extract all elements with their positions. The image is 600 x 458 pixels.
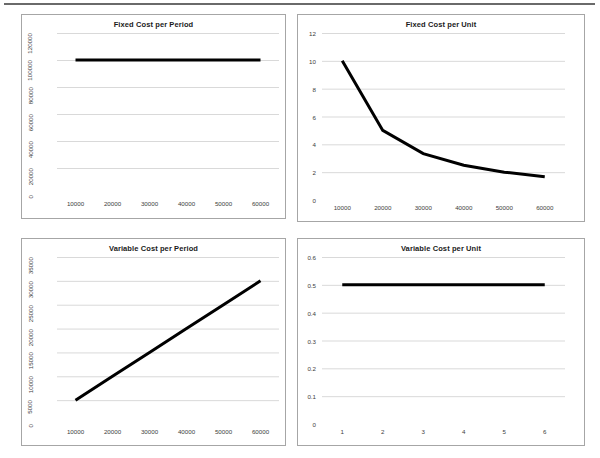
y-tick-label: 15000: [27, 352, 34, 369]
y-tick-label: 40000: [27, 141, 34, 158]
y-axis-labels: 024681012: [298, 15, 319, 223]
y-tick-label: 0: [27, 195, 34, 198]
x-tick-label: 60000: [252, 200, 269, 207]
x-axis-labels: 123456: [322, 428, 565, 444]
y-tick-label: 10: [309, 57, 316, 64]
series-line: [342, 61, 545, 177]
y-tick-label: 60000: [27, 114, 34, 131]
chart-variable-cost-per-period: Variable Cost per Period 050001000015000…: [21, 238, 286, 446]
series-line: [76, 281, 261, 400]
x-tick-label: 20000: [374, 204, 391, 211]
gridlines: [322, 258, 565, 425]
y-axis-labels: 020000400006000080000100000120000: [22, 15, 55, 220]
y-tick-label: 5000: [27, 400, 34, 414]
x-tick-label: 3: [422, 428, 425, 435]
chart-sheet: Fixed Cost per Period 020000400006000080…: [0, 0, 600, 458]
y-tick-label: 10000: [27, 376, 34, 393]
x-tick-label: 40000: [178, 428, 195, 435]
gridlines: [57, 34, 279, 196]
x-tick-label: 6: [543, 428, 546, 435]
plot-area: [322, 257, 565, 424]
x-tick-label: 10000: [334, 204, 351, 211]
y-tick-label: 0.1: [307, 393, 316, 400]
y-tick-label: 25000: [27, 305, 34, 322]
x-tick-label: 30000: [141, 428, 158, 435]
plot-svg: [57, 33, 279, 195]
x-tick-label: 2: [381, 428, 384, 435]
x-tick-label: 30000: [415, 204, 432, 211]
y-tick-label: 0.3: [307, 337, 316, 344]
x-tick-label: 40000: [178, 200, 195, 207]
y-tick-label: 0: [313, 421, 316, 428]
y-tick-label: 6: [313, 113, 316, 120]
x-tick-label: 4: [462, 428, 465, 435]
x-axis-labels: 100002000030000400005000060000: [57, 200, 279, 216]
y-tick-label: 0: [313, 197, 316, 204]
chart-fixed-cost-per-unit: Fixed Cost per Unit 024681012 1000020000…: [297, 14, 585, 222]
y-tick-label: 0.4: [307, 309, 316, 316]
plot-svg: [57, 257, 279, 424]
x-axis-labels: 100002000030000400005000060000: [322, 204, 565, 220]
x-tick-label: 60000: [252, 428, 269, 435]
chart-title: Fixed Cost per Period: [22, 20, 285, 29]
y-tick-label: 80000: [27, 87, 34, 104]
x-tick-label: 50000: [496, 204, 513, 211]
chart-title: Variable Cost per Period: [22, 244, 285, 253]
x-tick-label: 10000: [67, 428, 84, 435]
y-tick-label: 0.5: [307, 281, 316, 288]
y-tick-label: 12: [309, 30, 316, 37]
plot-svg: [322, 33, 565, 200]
chart-variable-cost-per-unit: Variable Cost per Unit 00.10.20.30.40.50…: [297, 238, 585, 446]
x-tick-label: 20000: [104, 428, 121, 435]
y-tick-label: 100000: [27, 60, 34, 81]
plot-area: [57, 33, 279, 195]
x-tick-label: 30000: [141, 200, 158, 207]
x-tick-label: 1: [341, 428, 344, 435]
x-tick-label: 40000: [455, 204, 472, 211]
x-tick-label: 50000: [215, 428, 232, 435]
x-tick-label: 20000: [104, 200, 121, 207]
x-tick-label: 10000: [67, 200, 84, 207]
plot-area: [322, 33, 565, 200]
x-tick-label: 60000: [536, 204, 553, 211]
chart-fixed-cost-per-period: Fixed Cost per Period 020000400006000080…: [21, 14, 286, 219]
y-axis-labels: 00.10.20.30.40.50.6: [298, 239, 319, 447]
y-tick-label: 20000: [27, 168, 34, 185]
y-tick-label: 0.2: [307, 365, 316, 372]
plot-area: [57, 257, 279, 424]
y-axis-labels: 05000100001500020000250003000035000: [22, 239, 55, 447]
y-tick-label: 0: [27, 424, 34, 427]
plot-svg: [322, 257, 565, 424]
y-tick-label: 120000: [27, 33, 34, 54]
chart-title: Fixed Cost per Unit: [298, 20, 584, 29]
x-tick-label: 50000: [215, 200, 232, 207]
chart-title: Variable Cost per Unit: [298, 244, 584, 253]
y-tick-label: 0.6: [307, 254, 316, 261]
x-tick-label: 5: [503, 428, 506, 435]
y-tick-label: 30000: [27, 281, 34, 298]
header-divider: [4, 3, 595, 5]
y-tick-label: 20000: [27, 329, 34, 346]
y-tick-label: 4: [313, 141, 316, 148]
y-tick-label: 2: [313, 169, 316, 176]
y-tick-label: 8: [313, 85, 316, 92]
y-tick-label: 35000: [27, 257, 34, 274]
x-axis-labels: 100002000030000400005000060000: [57, 428, 279, 444]
